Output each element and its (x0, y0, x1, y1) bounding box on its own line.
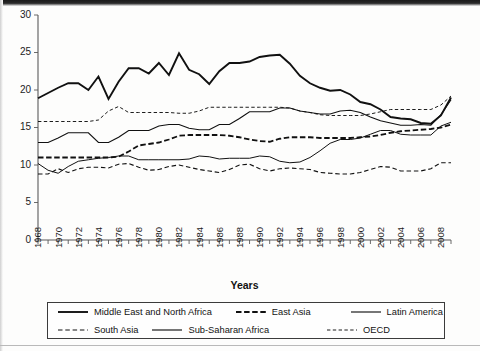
x-tick-label: 1994 (294, 227, 305, 248)
legend-line-swatch (58, 326, 88, 334)
legend-entry: OECD (327, 325, 390, 335)
series-line-oecd (38, 96, 451, 122)
legend-label: East Asia (272, 307, 311, 317)
y-tick-label: 25 (20, 46, 32, 57)
x-tick-label: 1968 (32, 227, 43, 248)
x-tick-label: 2000 (355, 227, 366, 248)
legend-label: Middle East and North Africa (94, 307, 212, 317)
x-tick-label: 1980 (153, 227, 164, 248)
x-tick-label: 1972 (73, 227, 84, 248)
legend-entry: Middle East and North Africa (58, 307, 212, 317)
y-tick-label: 15 (20, 121, 32, 132)
x-tick-label: 1992 (274, 227, 285, 248)
x-tick-label: 1982 (173, 227, 184, 248)
line-chart: 0510152025301968197019721974197619781980… (0, 6, 480, 296)
x-tick-label: 1998 (335, 227, 346, 248)
legend-entry: Sub-Saharan Africa (152, 325, 269, 335)
x-tick-label: 1996 (314, 227, 325, 248)
x-tick-label: 1990 (254, 227, 265, 248)
x-tick-label: 1984 (194, 227, 205, 248)
x-tick-label: 2004 (395, 227, 406, 248)
legend-entry: East Asia (236, 307, 311, 317)
series-line-middle-east-and-north-africa (38, 53, 451, 124)
chart-canvas: 0510152025301968197019721974197619781980… (0, 6, 480, 296)
legend-line-swatch (351, 308, 381, 316)
legend-label: Latin America (387, 307, 443, 317)
legend-line-swatch (236, 308, 266, 316)
legend-row: South AsiaSub-Saharan AfricaOECD (48, 321, 444, 339)
chart-legend: Middle East and North AfricaEast AsiaLat… (47, 302, 445, 339)
legend-line-swatch (58, 308, 88, 316)
x-tick-label: 1978 (133, 227, 144, 248)
x-tick-label: 2008 (435, 227, 446, 248)
page-bottom-rule (0, 345, 480, 346)
x-tick-label: 1976 (113, 227, 124, 248)
series-line-sub-saharan-africa (38, 122, 451, 173)
legend-label: Sub-Saharan Africa (188, 325, 269, 335)
legend-label: OECD (363, 325, 390, 335)
x-axis-title: Years (230, 279, 258, 291)
x-tick-label: 1986 (214, 227, 225, 248)
x-tick-label: 1970 (53, 227, 64, 248)
legend-entry: South Asia (58, 325, 138, 335)
y-tick-label: 0 (25, 234, 31, 245)
series-line-latin-america (38, 100, 451, 143)
y-tick-label: 30 (20, 9, 32, 20)
legend-line-swatch (327, 326, 357, 334)
x-tick-label: 2006 (415, 227, 426, 248)
series-line-south-asia (38, 163, 451, 174)
y-tick-label: 20 (20, 84, 32, 95)
legend-label: South Asia (94, 325, 138, 335)
x-tick-label: 1974 (93, 227, 104, 248)
legend-row: Middle East and North AfricaEast AsiaLat… (48, 303, 444, 321)
y-tick-label: 5 (25, 196, 31, 207)
legend-entry: Latin America (351, 307, 443, 317)
y-tick-label: 10 (20, 159, 32, 170)
series-line-east-asia (38, 125, 451, 158)
x-tick-label: 2002 (375, 227, 386, 248)
x-tick-label: 1988 (234, 227, 245, 248)
legend-line-swatch (152, 326, 182, 334)
scanned-page: 0510152025301968197019721974197619781980… (0, 0, 480, 351)
